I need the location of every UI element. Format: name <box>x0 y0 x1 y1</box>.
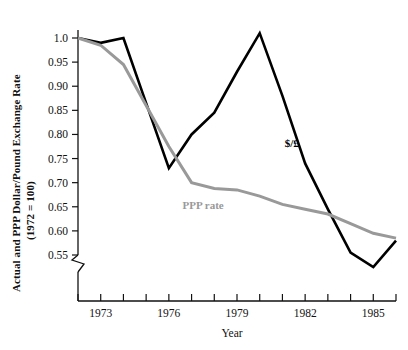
y-tick-label: 0.65 <box>48 201 68 213</box>
series-lines <box>78 33 396 267</box>
y-axis: 0.550.600.650.700.750.800.850.900.951.0 <box>48 30 84 301</box>
x-tick-label: 1982 <box>294 307 317 319</box>
y-tick-label: 0.75 <box>48 153 68 165</box>
y-tick-label: 0.70 <box>48 177 68 189</box>
y-tick-label: 0.95 <box>48 56 68 68</box>
series-line <box>78 38 396 238</box>
y-tick-label: 0.55 <box>48 249 68 261</box>
chart-figure: Actual and PPP Dollar/Pound Exchange Rat… <box>0 0 408 350</box>
x-axis: 19731976197919821985 Year <box>78 294 396 339</box>
series-label: PPP rate <box>182 199 223 211</box>
axis-break-icon <box>72 255 84 272</box>
y-tick-label: 0.85 <box>48 104 68 116</box>
x-tick-label: 1979 <box>226 307 249 319</box>
x-axis-title: Year <box>221 327 242 339</box>
x-tick-label: 1985 <box>362 307 385 319</box>
x-tick-label: 1976 <box>157 307 180 319</box>
y-tick-group: 0.550.600.650.700.750.800.850.900.951.0 <box>48 32 78 261</box>
y-tick-label: 0.60 <box>48 225 68 237</box>
series-label: $/£ <box>285 137 300 149</box>
y-tick-label: 1.0 <box>54 32 69 44</box>
series-annotations: $/£PPP rate <box>182 137 299 212</box>
x-tick-group: 19731976197919821985 <box>78 294 396 319</box>
x-tick-label: 1973 <box>89 307 112 319</box>
chart-plot-area: 0.550.600.650.700.750.800.850.900.951.0 … <box>0 0 408 350</box>
y-tick-label: 0.90 <box>48 80 68 92</box>
y-tick-label: 0.80 <box>48 128 68 140</box>
